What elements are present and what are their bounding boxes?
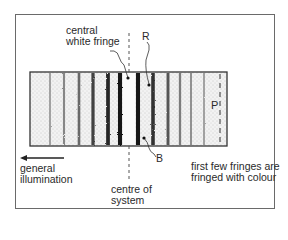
- fringe-10: [190, 73, 192, 145]
- dot-R: [147, 83, 150, 86]
- note-line-2: fringed with colour: [191, 172, 276, 184]
- fringe-7: [151, 73, 155, 145]
- label-B: B: [156, 153, 163, 165]
- fringe-1: [63, 73, 65, 145]
- label-illumination: illumination: [20, 174, 73, 186]
- fringe-9: [179, 73, 181, 145]
- arrow-head: [20, 155, 27, 161]
- label-P: P: [211, 100, 218, 112]
- fringe-2: [78, 73, 81, 145]
- fringe-5: [118, 73, 122, 145]
- fringe-panel: [30, 72, 227, 146]
- fringe-6: [136, 73, 140, 145]
- dot-central-fringe: [126, 76, 129, 79]
- label-system: system: [111, 195, 144, 207]
- fringe-3: [91, 73, 94, 145]
- label-central-2: white fringe: [66, 36, 120, 48]
- label-R: R: [142, 31, 150, 43]
- fringe-11: [203, 73, 205, 145]
- fringe-0: [49, 73, 51, 145]
- fringe-8: [167, 73, 170, 145]
- dot-B: [142, 136, 145, 139]
- fringe-4: [106, 73, 110, 145]
